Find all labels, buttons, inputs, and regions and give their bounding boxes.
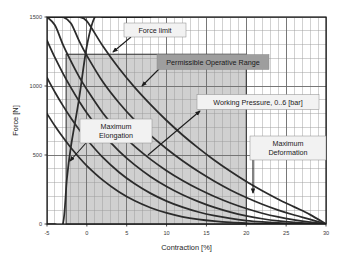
annotation-maximum-deformation: Maximum Deformation: [250, 136, 326, 160]
annotation-permissible-range: Permissible Operative Range: [157, 55, 269, 70]
chart-figure: -5051015202530 050010001500 Contraction …: [0, 0, 346, 259]
permissible-range-label: Permissible Operative Range: [166, 58, 259, 67]
annotation-working-pressure: Working Pressure, 0..6 [bar]: [197, 95, 319, 110]
y-tick-label: 1500: [30, 14, 42, 20]
force-limit-label: Force limit: [138, 26, 171, 35]
x-tick-label: -5: [45, 230, 50, 236]
y-tick-label: 1000: [30, 83, 42, 89]
x-tick-label: 5: [125, 230, 128, 236]
maximum-elongation-label-line2: Elongation: [99, 131, 133, 140]
y-tick-label: 500: [33, 152, 42, 158]
maximum-deformation-label-line2: Deformation: [268, 148, 307, 157]
x-tick-label: 15: [203, 230, 209, 236]
working-pressure-label: Working Pressure, 0..6 [bar]: [213, 98, 302, 107]
maximum-elongation-label-line1: Maximum: [100, 122, 131, 131]
x-tick-label: 20: [243, 230, 249, 236]
y-tick-label: 0: [39, 221, 42, 227]
x-tick-label: 10: [163, 230, 169, 236]
annotation-force-limit: Force limit: [124, 23, 186, 37]
y-axis-title: Force [N]: [11, 105, 20, 135]
annotation-maximum-elongation: Maximum Elongation: [80, 119, 152, 143]
x-tick-label: 0: [85, 230, 88, 236]
force-contraction-chart: -5051015202530 050010001500 Contraction …: [0, 0, 346, 259]
x-axis-title: Contraction [%]: [161, 243, 212, 252]
x-tick-label: 30: [323, 230, 329, 236]
x-tick-label: 25: [283, 230, 289, 236]
maximum-deformation-label-line1: Maximum: [272, 139, 303, 148]
